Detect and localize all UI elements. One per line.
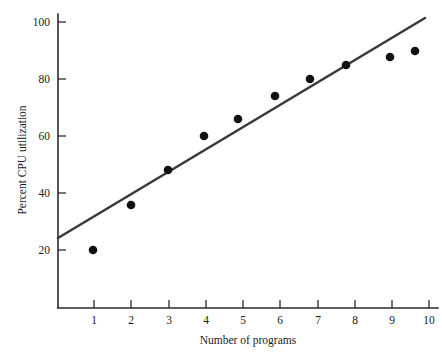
y-tick-label-80: 80 — [39, 73, 51, 85]
plot-area: 100 80 60 40 20 1 2 3 4 5 6 7 8 9 10 — [0, 0, 442, 352]
data-points — [89, 47, 420, 255]
x-tick-label-8: 8 — [352, 314, 358, 326]
y-axis-title: Percent CPU utilization — [16, 105, 28, 214]
data-point-10 — [411, 47, 420, 56]
cpu-utilization-scatter-chart: 100 80 60 40 20 1 2 3 4 5 6 7 8 9 10 — [0, 0, 442, 352]
data-point-6 — [271, 92, 280, 101]
x-tick-label-2: 2 — [128, 314, 134, 326]
y-tick-label-100: 100 — [33, 16, 51, 28]
data-point-9 — [386, 53, 395, 62]
x-tick-label-6: 6 — [277, 314, 283, 326]
x-tick-label-1: 1 — [91, 314, 97, 326]
x-tick-label-5: 5 — [240, 314, 246, 326]
data-point-7 — [306, 75, 315, 84]
y-tick-label-40: 40 — [39, 187, 51, 199]
x-tick-label-4: 4 — [203, 314, 209, 326]
y-axis-ticks — [58, 22, 66, 250]
x-axis-title: Number of programs — [200, 334, 297, 347]
x-tick-label-3: 3 — [166, 314, 172, 326]
data-point-5 — [234, 115, 243, 124]
data-point-2 — [127, 201, 136, 210]
data-point-3 — [164, 166, 173, 175]
trend-line — [58, 18, 425, 238]
y-tick-label-60: 60 — [39, 130, 51, 142]
data-point-1 — [89, 246, 98, 255]
data-point-8 — [342, 61, 351, 70]
x-axis-ticks — [94, 300, 429, 308]
x-tick-label-10: 10 — [423, 314, 435, 326]
y-tick-label-20: 20 — [39, 244, 51, 256]
x-tick-label-9: 9 — [389, 314, 395, 326]
data-point-4 — [200, 132, 209, 141]
x-tick-label-7: 7 — [315, 314, 321, 326]
